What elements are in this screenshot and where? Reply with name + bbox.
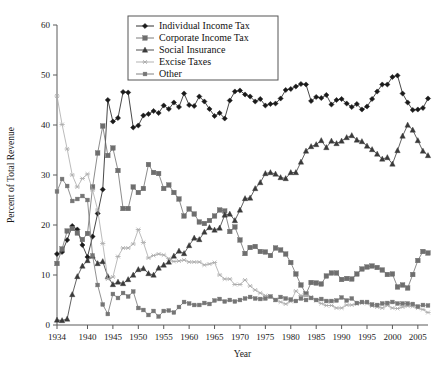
x-tick-label: 1934 [48, 332, 67, 342]
data-point-square [365, 265, 370, 270]
x-tick-label: 1940 [78, 332, 97, 342]
data-point-square [319, 297, 323, 301]
data-point-square [329, 271, 334, 276]
y-tick-label: 30 [41, 170, 51, 180]
data-point-square [238, 238, 243, 243]
data-point-star [349, 303, 354, 307]
data-point-triangle [54, 317, 59, 322]
data-point-diamond [146, 111, 151, 116]
data-point-triangle [405, 122, 410, 127]
data-point-diamond [105, 97, 110, 102]
data-point-triangle [110, 282, 115, 287]
data-point-square [416, 258, 421, 263]
data-point-square [207, 218, 212, 223]
data-point-triangle [75, 274, 80, 279]
data-point-square [405, 286, 410, 291]
x-tick-label: 2005 [409, 332, 428, 342]
data-point-diamond [131, 125, 136, 130]
data-point-square [248, 245, 253, 250]
data-point-square [141, 308, 145, 312]
data-point-star [156, 252, 161, 256]
data-point-triangle [319, 138, 324, 143]
data-point-square [157, 315, 161, 319]
x-tick-label: 1945 [104, 332, 123, 342]
data-point-square [335, 299, 339, 303]
data-point-square [274, 298, 278, 302]
data-point-star [217, 273, 222, 277]
legend-label: Other [159, 68, 182, 79]
data-point-square [309, 280, 314, 285]
data-point-star [75, 185, 80, 189]
data-point-diamond [141, 113, 146, 118]
data-point-triangle [70, 292, 75, 297]
data-point-square [96, 283, 100, 287]
data-point-square [167, 183, 172, 188]
data-point-diamond [425, 96, 430, 101]
data-point-star [248, 284, 253, 288]
data-point-square [101, 303, 105, 307]
data-point-star [400, 305, 405, 309]
data-point-square [370, 303, 374, 307]
data-point-square [283, 252, 288, 257]
data-point-square [111, 292, 115, 296]
data-point-square [396, 302, 400, 306]
x-tick-label: 1965 [206, 332, 225, 342]
data-point-square [344, 276, 349, 281]
data-point-square [192, 212, 197, 217]
data-point-square [233, 300, 237, 304]
data-point-square [126, 295, 130, 299]
data-point-star [329, 304, 334, 308]
data-point-square [319, 282, 324, 287]
data-point-diamond [187, 102, 192, 107]
data-point-square [141, 186, 146, 191]
data-point-square [334, 271, 339, 276]
data-point-diamond [319, 95, 324, 100]
data-point-square [55, 261, 60, 266]
data-point-star [151, 254, 156, 258]
data-point-square [182, 300, 186, 304]
data-point-square [416, 305, 420, 309]
series-line [57, 125, 428, 321]
x-tick-label: 2000 [383, 332, 402, 342]
data-point-square [263, 297, 267, 301]
data-point-triangle [369, 147, 374, 152]
data-point-triangle [141, 266, 146, 271]
data-point-square [152, 309, 156, 313]
data-point-diamond [156, 110, 161, 115]
data-point-square [233, 225, 238, 230]
data-point-diamond [298, 81, 303, 86]
data-point-star [80, 177, 85, 181]
data-point-square [258, 249, 263, 254]
data-point-square [340, 296, 344, 300]
data-point-square [391, 300, 395, 304]
data-point-square [289, 298, 293, 302]
data-point-star [334, 306, 339, 310]
data-point-triangle [115, 279, 120, 284]
data-point-square [212, 214, 217, 219]
data-point-star [237, 283, 242, 287]
data-point-diamond [364, 104, 369, 109]
data-point-star [120, 246, 125, 250]
data-point-square [314, 298, 318, 302]
data-point-square [85, 231, 90, 236]
data-point-square [360, 267, 365, 272]
x-tick-label: 1980 [282, 332, 301, 342]
data-point-diamond [136, 123, 141, 128]
data-point-diamond [227, 98, 232, 103]
data-point-square [156, 171, 161, 176]
data-point-square [309, 296, 313, 300]
data-point-square [284, 297, 288, 301]
data-point-square [136, 306, 140, 310]
data-point-square [279, 295, 283, 299]
data-point-star [212, 261, 217, 265]
data-point-diamond [410, 107, 415, 112]
x-tick-label: 1975 [256, 332, 275, 342]
data-point-star [202, 263, 207, 267]
data-point-square [294, 272, 299, 277]
data-point-square [121, 291, 125, 295]
data-point-square [202, 301, 206, 305]
data-point-star [146, 256, 151, 260]
data-point-diamond [151, 108, 156, 113]
data-point-square [131, 290, 135, 294]
data-point-star [181, 258, 186, 262]
